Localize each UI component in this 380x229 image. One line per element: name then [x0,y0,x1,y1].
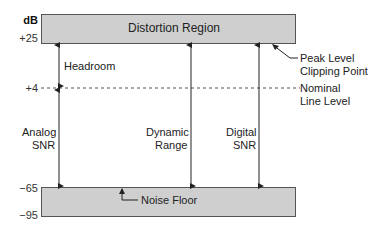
peak-level-label-1: Peak Level [300,52,354,65]
dynamic-range-label-1: Dynamic [146,126,189,139]
tick-minus-95: −95 [4,209,38,222]
analog-snr-label-1: Analog [22,126,56,139]
digital-snr-label-1: Digital [226,126,257,139]
tick-minus-65: −65 [4,182,38,195]
axis-unit-label: dB [4,14,38,27]
analog-snr-label-2: SNR [32,139,55,152]
nominal-line-label-2: Line Level [300,95,350,108]
tick-plus-25: +25 [4,32,38,45]
dynamic-range-label-2: Range [155,139,187,152]
noise-floor-label: Noise Floor [141,194,197,207]
nominal-line-label-1: Nominal [300,82,340,95]
headroom-label: Headroom [64,60,115,73]
tick-plus-4: +4 [4,82,38,95]
digital-snr-label-2: SNR [233,139,256,152]
peak-level-label-2: Clipping Point [300,65,368,78]
